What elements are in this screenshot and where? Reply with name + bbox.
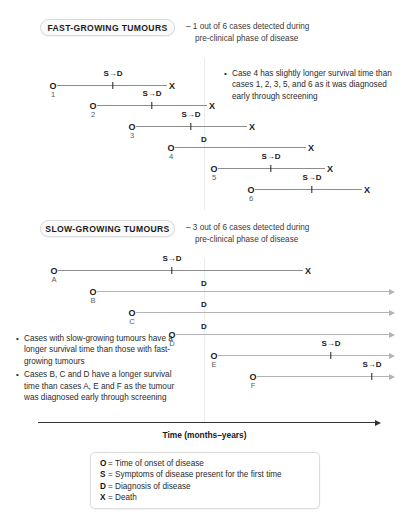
diagnosis-tick [330,352,331,359]
onset-marker: O [249,372,256,381]
case-lane [136,312,389,313]
time-axis-label: Time (months–years) [0,430,409,440]
symptom-diagnosis-label: S→D [142,90,161,98]
onset-marker: O [167,143,174,152]
onset-marker: O [210,351,217,360]
case-label: E [211,361,216,369]
legend-symbol: X [100,492,108,503]
legend-box: O= Time of onset of disease S= Symptoms … [90,452,320,509]
case-lane [257,376,389,377]
section-note-fast-growing: – 1 out of 6 cases detected during pre-c… [186,21,309,44]
diagnosis-label: D [201,301,207,309]
onset-marker: O [128,122,135,131]
case-label: 3 [130,132,134,140]
section-note-line2: pre-clinical phase of disease [186,33,309,45]
onset-marker: O [128,308,135,317]
legend-text: Death [115,493,137,502]
section-note-line2: pre-clinical phase of disease [186,234,309,246]
onset-marker: O [247,185,254,194]
section-note-slow-growing: – 3 out of 6 cases detected during pre-c… [186,222,309,245]
diagnosis-tick [151,102,152,109]
timeline-arrowhead [389,289,395,295]
diagnosis-tick [311,186,312,193]
diagnosis-tick [171,267,172,274]
section-badge-slow-growing: SLOW-GROWING TUMOURS [40,220,175,237]
case-lane [218,355,389,356]
symptom-diagnosis-label: S→D [162,255,181,263]
legend-row-symptoms: S= Symptoms of disease present for the f… [100,469,311,480]
case-label: F [251,382,256,390]
case-lane [255,189,362,190]
death-marker: X [305,266,311,275]
case-lane [58,270,303,271]
diagnosis-tick [270,165,271,172]
legend-text: Time of onset of disease [115,459,204,468]
legend-row-onset: O= Time of onset of disease [100,458,311,469]
bullets-fast-growing: Case 4 has slightly longer survival time… [224,68,400,104]
death-marker: X [209,101,215,110]
legend-symbol: O [100,458,108,469]
legend-symbol: D [100,481,108,492]
timeline-arrowhead [389,332,395,338]
legend-equals: = [108,493,113,502]
death-marker: X [327,164,333,173]
diagnosis-label: D [201,323,207,331]
diagnosis-tick [112,82,113,89]
symptom-diagnosis-label: S→D [321,340,340,348]
diagram-canvas: FAST-GROWING TUMOURS – 1 out of 6 cases … [0,0,409,520]
case-label: B [90,297,95,305]
diagnosis-label: D [201,280,207,288]
legend-symbol: S [100,469,108,480]
onset-marker: O [50,266,57,275]
case-label: 4 [169,153,173,161]
section-note-line1: – 3 out of 6 cases detected during [186,223,309,232]
legend-row-diagnosis: D= Diagnosis of disease [100,481,311,492]
diagnosis-tick [190,123,191,130]
death-marker: X [249,122,255,131]
bullet-item: Case 4 has slightly longer survival time… [224,68,400,102]
onset-marker: O [49,81,56,90]
legend-row-death: X= Death [100,492,311,503]
death-marker: X [169,81,175,90]
case-lane [176,334,389,335]
legend-equals: = [108,459,113,468]
timeline-arrowhead [389,310,395,316]
section-badge-fast-growing: FAST-GROWING TUMOURS [40,19,175,36]
symptom-diagnosis-label: S→D [103,70,122,78]
timeline-arrowhead [389,374,395,380]
case-label: 6 [249,195,253,203]
legend-text: Diagnosis of disease [115,482,191,491]
symptom-diagnosis-label: S→D [362,361,381,369]
case-lane [175,147,306,148]
symptom-diagnosis-label: S→D [181,111,200,119]
case-label: A [51,276,56,284]
screening-guide-line-fast [204,58,205,210]
case-lane [97,291,389,292]
symptom-diagnosis-label: S→D [302,174,321,182]
bullet-item: Cases with slow-growing tumours have a l… [16,333,176,367]
timeline-arrowhead [389,353,395,359]
case-label: 2 [91,111,95,119]
onset-marker: O [89,287,96,296]
case-label: C [129,318,134,326]
onset-marker: O [210,164,217,173]
legend-equals: = [108,482,113,491]
diagnosis-label: D [201,136,207,144]
case-label: 5 [212,174,216,182]
legend-text: Symptoms of disease present for the firs… [115,470,282,479]
time-axis-line [38,422,378,423]
bullet-item: Cases B, C and D have a longer survival … [16,369,176,403]
death-marker: X [364,185,370,194]
case-label: 1 [51,91,55,99]
time-axis-arrowhead [375,420,381,426]
section-note-line1: – 1 out of 6 cases detected during [186,22,309,31]
legend-equals: = [108,470,113,479]
symptom-diagnosis-label: S→D [261,153,280,161]
diagnosis-tick [371,373,372,380]
bullets-slow-growing: Cases with slow-growing tumours have a l… [16,333,176,405]
onset-marker: O [89,101,96,110]
death-marker: X [308,143,314,152]
